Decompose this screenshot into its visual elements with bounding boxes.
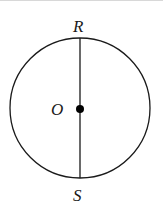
label-r: R: [72, 17, 84, 36]
center-point: [76, 105, 84, 113]
circle-diagram: R O S: [0, 0, 163, 215]
label-o: O: [51, 100, 63, 119]
label-s: S: [73, 186, 82, 205]
